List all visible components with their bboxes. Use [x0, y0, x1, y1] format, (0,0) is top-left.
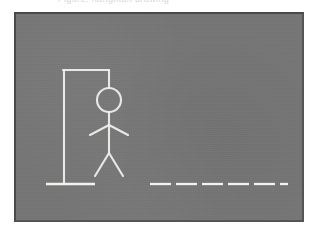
- top-caption-text: Figure: hangman drawing: [58, 0, 169, 4]
- hangman-drawing: [16, 14, 302, 220]
- figure-right-leg-line: [109, 153, 123, 176]
- top-caption-fragment: Figure: hangman drawing: [0, 0, 318, 11]
- figure-head: [97, 88, 121, 112]
- figure-left-arm-line: [90, 125, 109, 135]
- figure-left-leg-line: [95, 153, 109, 176]
- figure-right-arm-line: [109, 125, 128, 135]
- hangman-board-frame: [14, 12, 304, 222]
